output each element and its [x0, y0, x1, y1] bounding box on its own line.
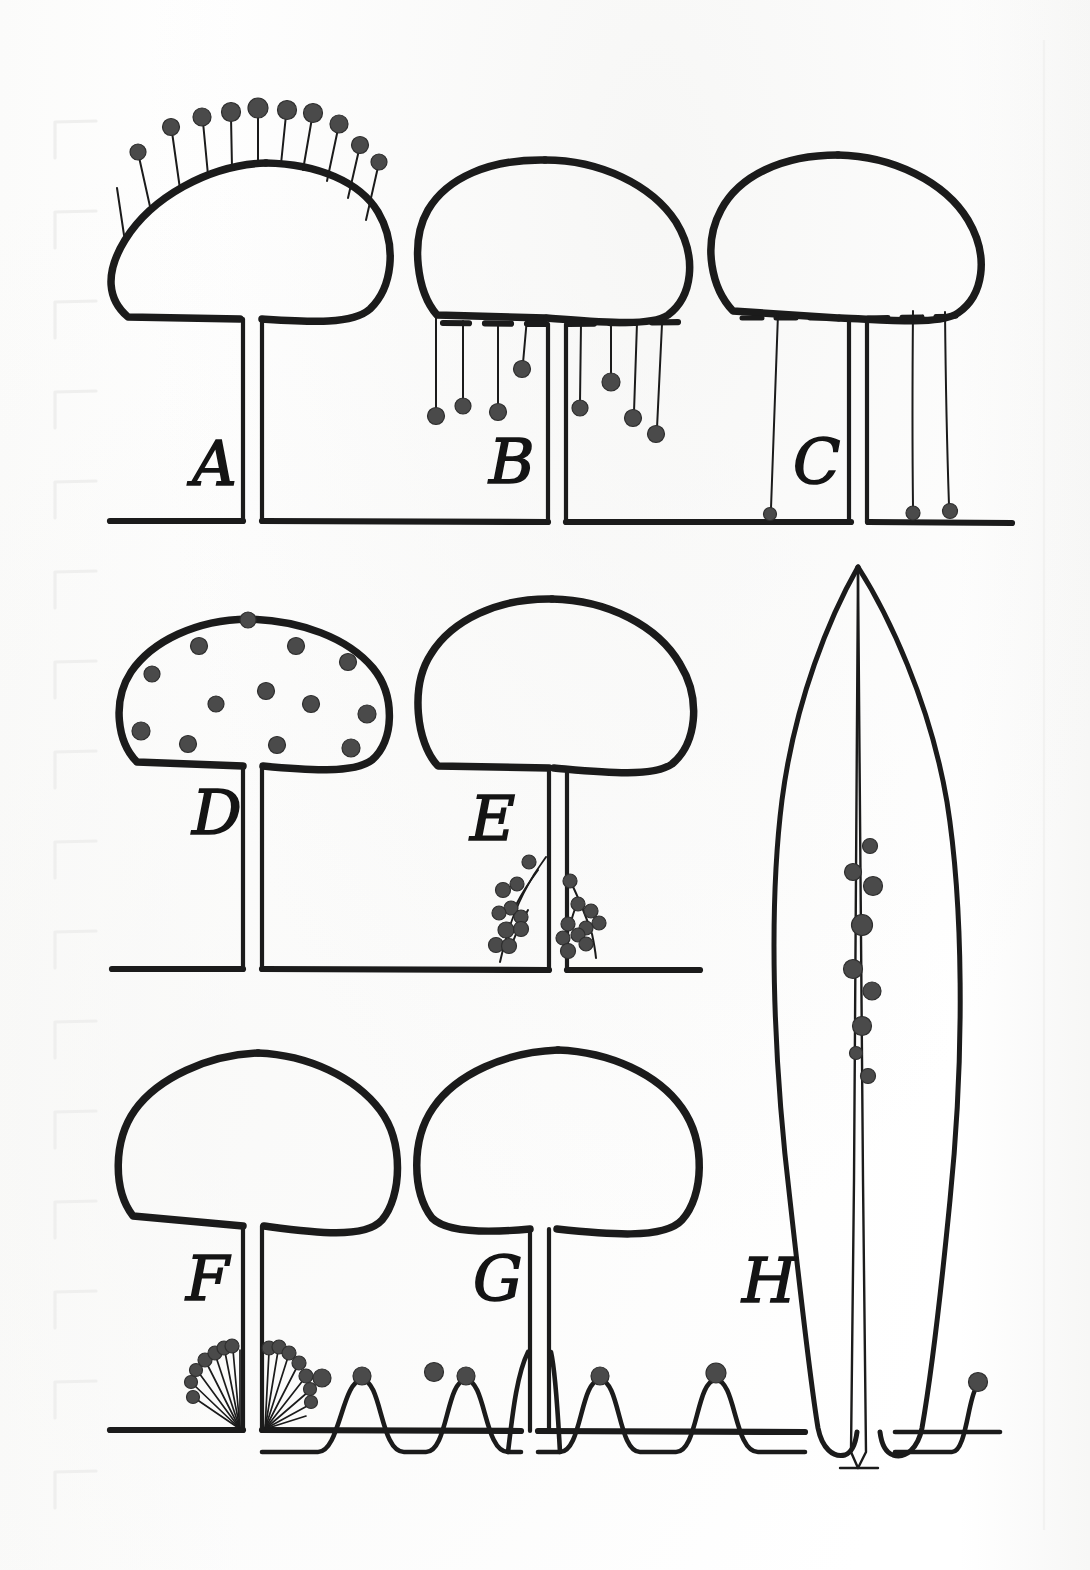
notebook-page: A B — [0, 0, 1090, 1570]
diagram-canvas: A B — [0, 0, 1090, 1570]
panel-f-crown — [118, 1053, 258, 1226]
panel-h-blade-right — [858, 567, 960, 1456]
panel-f-label: F — [185, 1242, 231, 1315]
ground-line-row-1 — [110, 521, 1012, 523]
panel-b: B — [418, 160, 690, 521]
panel-a-crown — [111, 163, 266, 319]
panel-b-crown-underside-left — [443, 323, 546, 324]
panel-h — [774, 567, 960, 1468]
panel-h-blade-left — [774, 567, 858, 1456]
panel-c-crown — [711, 155, 838, 318]
panel-g-runner — [262, 1352, 805, 1452]
panel-d: D — [119, 612, 389, 969]
panel-b-crown-underside-right — [568, 322, 680, 324]
panel-c-label: C — [793, 425, 840, 498]
panel-g: G — [262, 1050, 805, 1452]
panel-f-fan-left — [185, 1339, 241, 1429]
panel-c-crown-underside-right — [868, 316, 964, 318]
panel-a-label: A — [187, 427, 237, 500]
panel-b-label: B — [488, 425, 535, 498]
panel-e-crown — [418, 599, 552, 768]
spiral-binding-marks — [55, 121, 96, 1508]
panel-e-crown-right — [552, 599, 694, 773]
panel-e: E — [418, 599, 694, 969]
panel-b-crown-right — [545, 160, 690, 323]
panel-e-label: E — [469, 782, 515, 855]
panel-f-crown-right — [258, 1053, 398, 1233]
panel-h-runner — [895, 1373, 988, 1453]
panel-g-crown-right — [557, 1050, 699, 1234]
panel-a-crown-right — [262, 163, 390, 321]
ground-line-row-2 — [112, 969, 700, 970]
panel-a: A — [111, 98, 390, 521]
panel-f-fan-right — [262, 1340, 318, 1429]
panel-g-crown — [417, 1050, 558, 1231]
panel-g-label: G — [473, 1242, 523, 1315]
panel-d-label: D — [191, 776, 242, 849]
panel-d-markers — [132, 612, 376, 757]
panel-c: C — [711, 155, 981, 522]
panel-h-label: H — [741, 1244, 798, 1317]
panel-b-crown — [418, 160, 545, 318]
panel-f-runner-knobs — [313, 1369, 331, 1387]
panel-c-crown-right — [838, 155, 981, 321]
